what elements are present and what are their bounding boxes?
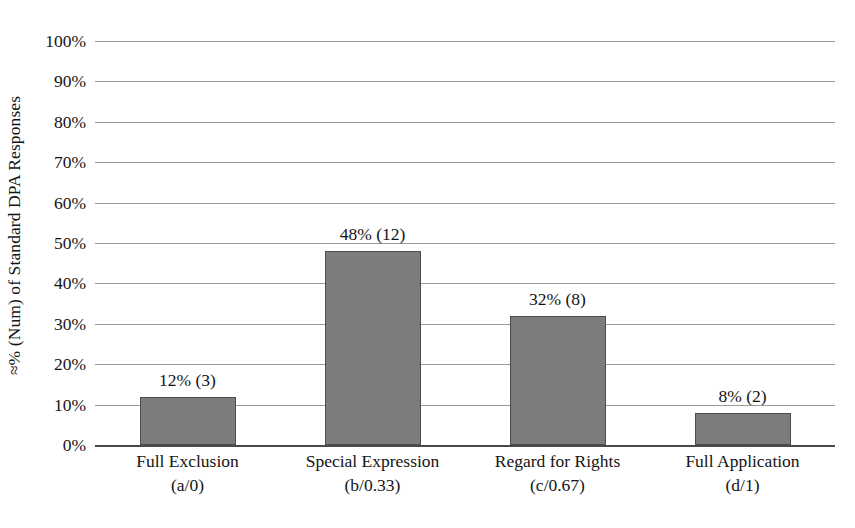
y-axis-tick-label: 70% [9, 152, 95, 173]
x-axis-category-name: Regard for Rights [495, 451, 620, 471]
bar-chart: ≈% (Num) of Standard DPA Responses 100%9… [0, 0, 855, 528]
y-axis-tick-labels: 100%90%80%70%60%50%40%30%20%10%0% [0, 41, 95, 445]
y-axis-tick-label: 40% [9, 273, 95, 294]
x-axis-category-name: Full Application [685, 451, 799, 471]
bar[interactable] [325, 251, 421, 445]
x-axis-category-sublabel: (d/1) [650, 473, 835, 497]
bar[interactable] [140, 397, 236, 445]
y-axis-tick-label: 30% [9, 313, 95, 334]
y-axis-tick-label: 60% [9, 192, 95, 213]
x-axis-category-label: Full Application(d/1) [650, 449, 835, 497]
x-axis-category-label: Special Expression(b/0.33) [280, 449, 465, 497]
bar-value-label: 32% (8) [529, 289, 586, 310]
bar[interactable] [695, 413, 791, 445]
x-axis-category-name: Full Exclusion [136, 451, 239, 471]
bar-value-label: 48% (12) [340, 224, 406, 245]
x-axis-category-label: Full Exclusion(a/0) [95, 449, 280, 497]
y-axis-tick-label: 50% [9, 233, 95, 254]
bar-slot: 48% (12) [280, 41, 465, 445]
plot-area: 12% (3)48% (12)32% (8)8% (2) [95, 41, 835, 445]
x-axis-category-name: Special Expression [306, 451, 440, 471]
bar-slot: 32% (8) [465, 41, 650, 445]
y-axis-tick-label: 10% [9, 394, 95, 415]
bar-slot: 12% (3) [95, 41, 280, 445]
x-axis-line [95, 445, 835, 447]
x-axis-category-sublabel: (a/0) [95, 473, 280, 497]
x-axis-category-labels: Full Exclusion(a/0)Special Expression(b/… [95, 449, 835, 519]
x-axis-category-label: Regard for Rights(c/0.67) [465, 449, 650, 497]
y-axis-tick-label: 100% [9, 31, 95, 52]
bar[interactable] [510, 316, 606, 445]
y-axis-tick-label: 90% [9, 71, 95, 92]
y-axis-tick-label: 20% [9, 354, 95, 375]
y-axis-tick-label: 80% [9, 111, 95, 132]
bar-slot: 8% (2) [650, 41, 835, 445]
x-axis-category-sublabel: (b/0.33) [280, 473, 465, 497]
bar-value-label: 12% (3) [159, 370, 216, 391]
bars-layer: 12% (3)48% (12)32% (8)8% (2) [95, 41, 835, 445]
y-axis-tick-label: 0% [9, 435, 95, 456]
bar-value-label: 8% (2) [718, 386, 766, 407]
x-axis-category-sublabel: (c/0.67) [465, 473, 650, 497]
